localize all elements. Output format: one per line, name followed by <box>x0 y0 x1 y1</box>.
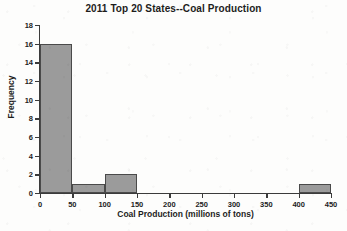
histogram-figure: 2011 Top 20 States--Coal Production Freq… <box>0 0 347 231</box>
y-tick <box>35 118 39 119</box>
x-tick-label: 250 <box>195 200 208 209</box>
x-tick-label: 200 <box>163 200 176 209</box>
x-tick <box>105 194 106 198</box>
histogram-bar <box>40 44 72 193</box>
y-tick-label: 6 <box>29 133 33 142</box>
y-tick <box>35 193 39 194</box>
x-axis-title: Coal Production (millions of tons) <box>40 209 331 219</box>
x-tick-label: 150 <box>131 200 144 209</box>
x-tick-label: 350 <box>260 200 273 209</box>
plot-area: 024681012141618 050100150200250300350400… <box>40 25 331 193</box>
y-tick-label: 16 <box>25 39 33 48</box>
histogram-bar <box>72 184 104 193</box>
y-tick-label: 4 <box>29 151 33 160</box>
x-tick <box>299 194 300 198</box>
x-tick-label: 400 <box>292 200 305 209</box>
chart-title: 2011 Top 20 States--Coal Production <box>0 3 347 14</box>
y-tick <box>35 81 39 82</box>
y-tick <box>35 62 39 63</box>
x-tick-label: 450 <box>325 200 338 209</box>
x-tick <box>169 194 170 198</box>
y-tick-label: 8 <box>29 114 33 123</box>
x-tick <box>72 194 73 198</box>
y-tick-label: 10 <box>25 95 33 104</box>
y-tick <box>35 25 39 26</box>
x-tick <box>202 194 203 198</box>
x-tick-label: 300 <box>228 200 241 209</box>
y-tick-label: 12 <box>25 77 33 86</box>
x-tick <box>234 194 235 198</box>
y-tick-label: 18 <box>25 21 33 30</box>
histogram-bar <box>105 174 137 193</box>
y-tick <box>35 174 39 175</box>
x-tick-label: 0 <box>38 200 42 209</box>
x-tick <box>266 194 267 198</box>
histogram-bar <box>299 184 331 193</box>
x-axis-line <box>39 193 332 194</box>
x-tick <box>137 194 138 198</box>
x-tick <box>331 194 332 198</box>
x-tick-label: 50 <box>68 200 76 209</box>
y-tick-label: 14 <box>25 58 33 67</box>
y-axis-title: Frequency <box>4 0 16 193</box>
x-tick <box>40 194 41 198</box>
y-tick-label: 2 <box>29 170 33 179</box>
y-tick-label: 0 <box>29 189 33 198</box>
y-tick <box>35 137 39 138</box>
y-tick <box>35 44 39 45</box>
y-tick <box>35 156 39 157</box>
x-tick-label: 100 <box>98 200 111 209</box>
y-tick <box>35 100 39 101</box>
y-axis-title-label: Frequency <box>5 75 15 118</box>
